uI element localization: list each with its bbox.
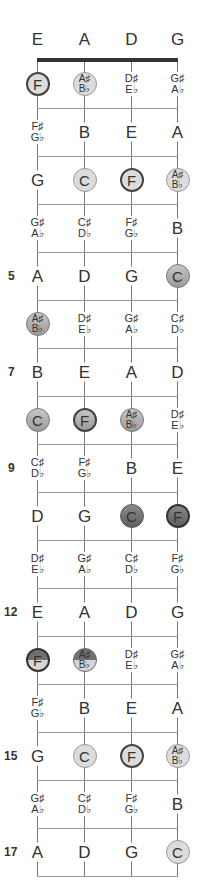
fret-line [37,396,178,397]
enharmonic-pair: F♯G♭ [125,793,139,815]
note-label: B [124,459,139,478]
highlighted-note: C [73,744,97,768]
flat-name: D♭ [125,564,138,575]
flat-name: G♭ [31,708,45,719]
note-label: A [30,843,45,862]
note-name: G [125,268,138,285]
note-name: A [79,604,90,621]
note-name: C [32,412,43,429]
note-label: D♯E♭ [123,72,140,96]
open-string-label: G [171,30,184,50]
flat-name: E♭ [31,564,44,575]
note-label: A [77,603,92,622]
note-label: D♯E♭ [29,552,46,576]
note-label: D [76,843,92,862]
flat-name: B♭ [126,420,138,430]
note-name: E [32,604,43,621]
note-name: E [79,364,90,381]
note-label: F♯G♭ [123,216,141,240]
note-name: C [79,748,90,765]
note-label: D♯E♭ [76,312,93,336]
note-name: E [126,124,137,141]
note-name: A [32,268,43,285]
fret-number: 5 [8,269,15,283]
note-name: B [172,220,183,237]
note-label: G [29,747,46,766]
enharmonic-pair: A♯B♭ [172,746,184,766]
note-name: F [173,508,182,525]
note-label: C♯D♭ [76,216,93,240]
note-name: G [31,748,44,765]
note-label: G♯A♭ [28,216,46,240]
fret-line [37,348,178,349]
highlighted-note: C [166,264,190,288]
note-name: D [78,844,90,861]
highlighted-note: A♯B♭ [73,72,97,96]
fret-line [37,732,178,733]
fret-line [37,684,178,685]
highlighted-note: A♯B♭ [73,648,97,672]
flat-name: G♭ [31,132,45,143]
note-name: A [172,700,183,717]
flat-name: G♭ [125,228,139,239]
note-name: F [80,412,89,429]
flat-name: B♭ [172,180,184,190]
flat-name: B♭ [32,324,44,334]
note-name: F [33,652,42,669]
enharmonic-pair: A♯B♭ [79,650,91,670]
fret-number: 9 [8,461,15,475]
enharmonic-pair: F♯G♭ [125,217,139,239]
note-name: G [171,604,184,621]
enharmonic-pair: A♯B♭ [32,314,44,334]
enharmonic-pair: C♯D♭ [78,793,91,815]
highlighted-note: C [120,504,144,528]
note-label: E [124,123,139,142]
enharmonic-pair: D♯E♭ [78,313,91,335]
highlighted-note: A♯B♭ [26,312,50,336]
note-label: B [30,363,45,382]
highlighted-note: A♯B♭ [166,168,190,192]
enharmonic-pair: F♯G♭ [171,553,185,575]
note-label: A [170,699,185,718]
note-label: G♯A♭ [122,312,140,336]
note-name: C [79,172,90,189]
note-name: B [32,364,43,381]
note-name: G [78,508,91,525]
flat-name: E♭ [125,84,138,95]
note-name: C [172,844,183,861]
highlighted-note: A♯B♭ [166,744,190,768]
flat-name: D♭ [78,228,91,239]
fret-line [37,876,178,877]
note-label: D♯E♭ [169,408,186,432]
note-name: G [31,172,44,189]
fret-line [37,300,178,301]
note-label: F♯G♭ [29,120,47,144]
fret-line [37,540,178,541]
note-name: A [32,844,43,861]
note-name: F [127,172,136,189]
fret-line [37,204,178,205]
note-label: F♯G♭ [76,456,94,480]
flat-name: B♭ [79,660,91,670]
flat-name: A♭ [30,228,44,239]
note-name: B [79,124,90,141]
note-label: E [170,459,185,478]
flat-name: A♭ [170,660,184,671]
note-label: G [29,171,46,190]
enharmonic-pair: G♯A♭ [30,793,44,815]
flat-name: A♭ [124,324,138,335]
enharmonic-pair: C♯D♭ [125,553,138,575]
note-label: A [170,123,185,142]
open-string-label: D [125,30,137,50]
highlighted-note: F [120,744,144,768]
flat-name: G♭ [78,468,92,479]
fret-line [37,156,178,157]
note-label: F♯G♭ [123,792,141,816]
enharmonic-pair: F♯G♭ [31,697,45,719]
enharmonic-pair: F♯G♭ [78,457,92,479]
flat-name: G♭ [171,564,185,575]
fret-line [37,780,178,781]
note-label: D [76,267,92,286]
enharmonic-pair: D♯E♭ [171,409,184,431]
note-name: E [172,460,183,477]
